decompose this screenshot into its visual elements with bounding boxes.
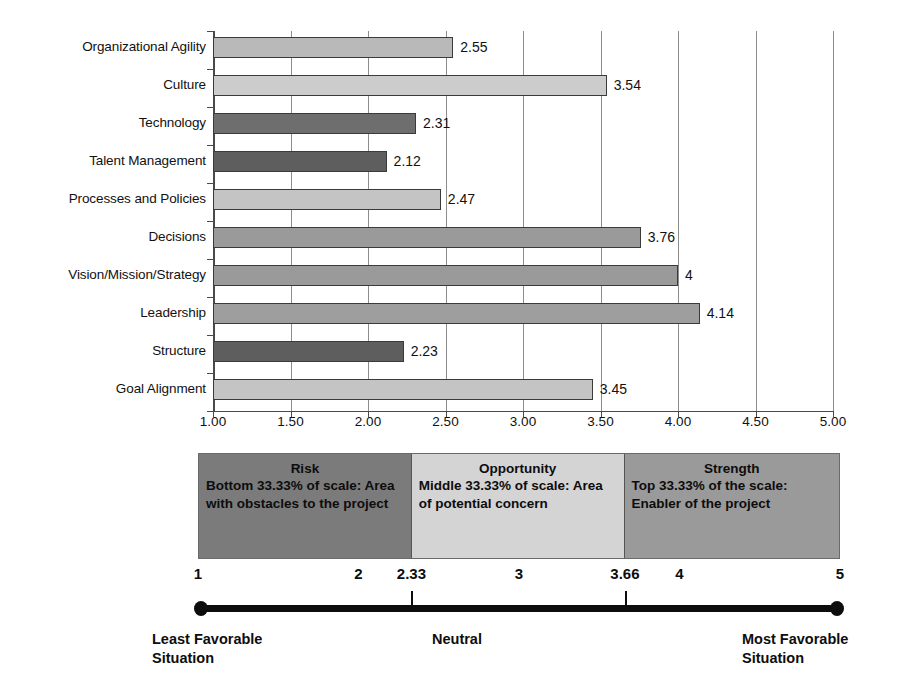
scale-number-label: 2 <box>354 565 362 582</box>
legend-panel-opportunity: Opportunity Middle 33.33% of scale: Area… <box>412 454 625 558</box>
bar <box>213 189 441 210</box>
y-axis-tick <box>207 31 213 32</box>
bar <box>213 75 607 96</box>
bar <box>213 37 453 58</box>
scale-number-label: 1 <box>194 565 202 582</box>
category-label: Leadership <box>6 306 206 320</box>
category-label: Decisions <box>6 230 206 244</box>
bar-value-label: 3.45 <box>600 379 627 400</box>
category-label: Technology <box>6 116 206 130</box>
bar-value-label: 4 <box>685 265 693 286</box>
bar <box>213 379 593 400</box>
y-axis-tick <box>207 335 213 336</box>
scale-number-label: 5 <box>836 565 844 582</box>
category-label: Goal Alignment <box>6 382 206 396</box>
x-axis-tick-label: 5.00 <box>820 414 846 429</box>
legend-panel-opportunity-title: Opportunity <box>419 460 617 477</box>
category-label: Organizational Agility <box>6 40 206 54</box>
caption-most-favorable: Most Favorable Situation <box>742 630 848 668</box>
scale-tick <box>625 591 627 605</box>
gridline <box>756 31 757 411</box>
x-axis-tick-label: 2.00 <box>355 414 381 429</box>
bar-value-label: 3.54 <box>614 75 641 96</box>
x-axis-tick-label: 2.50 <box>432 414 458 429</box>
y-axis-tick <box>207 373 213 374</box>
scale-number-label: 2.33 <box>397 565 426 582</box>
legend-panel-strength-title: Strength <box>632 460 832 477</box>
favorability-scale: 122.3333.6645 <box>198 565 840 625</box>
legend-panel-risk-body: Bottom 33.33% of scale: Area with obstac… <box>206 477 404 513</box>
caption-neutral: Neutral <box>432 630 482 649</box>
bar-value-label: 2.12 <box>394 151 421 172</box>
bar <box>213 227 641 248</box>
x-axis-tick-labels: 1.001.502.002.503.003.504.004.505.00 <box>213 414 833 436</box>
bar-value-label: 4.14 <box>707 303 734 324</box>
scale-endpoint-left-icon <box>194 601 208 616</box>
bar <box>213 341 404 362</box>
category-label: Talent Management <box>6 154 206 168</box>
x-axis-tick-label: 3.00 <box>510 414 536 429</box>
x-axis-tick-label: 4.00 <box>665 414 691 429</box>
scale-number-label: 3.66 <box>610 565 639 582</box>
y-axis-tick <box>207 183 213 184</box>
x-axis-tick-label: 3.50 <box>587 414 613 429</box>
caption-least-favorable: Least Favorable Situation <box>152 630 262 668</box>
bar <box>213 113 416 134</box>
gridline <box>833 31 834 411</box>
x-axis-tick-label: 1.00 <box>200 414 226 429</box>
x-axis-tick-label: 1.50 <box>277 414 303 429</box>
bar-value-label: 2.55 <box>460 37 487 58</box>
category-axis-labels: Organizational AgilityCultureTechnologyT… <box>8 0 206 400</box>
scale-bar <box>198 605 840 612</box>
bar-value-label: 2.23 <box>411 341 438 362</box>
y-axis-tick <box>207 221 213 222</box>
bar <box>213 303 700 324</box>
scale-tick <box>411 591 413 605</box>
legend-panel-strength-body: Top 33.33% of the scale: Enabler of the … <box>632 477 832 513</box>
bar-chart: Organizational AgilityCultureTechnologyT… <box>0 0 918 440</box>
y-axis-tick <box>207 107 213 108</box>
bar-value-label: 3.76 <box>648 227 675 248</box>
y-axis-tick <box>207 69 213 70</box>
scale-number-label: 3 <box>515 565 523 582</box>
y-axis-tick <box>207 259 213 260</box>
legend-panel-risk: Risk Bottom 33.33% of scale: Area with o… <box>199 454 412 558</box>
scale-endpoint-right-icon <box>830 601 844 616</box>
bar-value-label: 2.31 <box>423 113 450 134</box>
category-label: Structure <box>6 344 206 358</box>
legend-panel-risk-title: Risk <box>206 460 404 477</box>
bar <box>213 265 678 286</box>
bar-value-label: 2.47 <box>448 189 475 210</box>
legend-panel-opportunity-body: Middle 33.33% of scale: Area of potentia… <box>419 477 617 513</box>
legend-panel-strength: Strength Top 33.33% of the scale: Enable… <box>625 454 839 558</box>
bar <box>213 151 387 172</box>
scale-legend-band: Risk Bottom 33.33% of scale: Area with o… <box>198 453 840 559</box>
category-label: Culture <box>6 78 206 92</box>
category-label: Vision/Mission/Strategy <box>6 268 206 282</box>
y-axis-tick <box>207 145 213 146</box>
scale-number-label: 4 <box>675 565 683 582</box>
x-axis-tick-label: 4.50 <box>742 414 768 429</box>
plot-area: 2.553.542.312.122.473.7644.142.233.45 <box>213 31 833 411</box>
category-label: Processes and Policies <box>6 192 206 206</box>
gridline <box>678 31 679 411</box>
y-axis-tick <box>207 297 213 298</box>
